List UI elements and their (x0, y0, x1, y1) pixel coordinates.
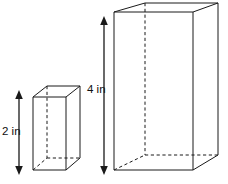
large-rectangular-prism (114, 3, 218, 170)
height-dimension-2in: 2 in (2, 90, 23, 175)
height-dimension-4in: 4 in (87, 16, 108, 175)
geometry-figure: 2 in 4 in (0, 0, 228, 184)
large-prism-right-face (193, 3, 218, 170)
small-rectangular-prism (33, 86, 80, 170)
dimension-2in-arrow-down-icon (15, 166, 23, 175)
dimension-4in-arrow-down-icon (100, 166, 108, 175)
small-prism-right-face (66, 86, 80, 170)
large-prism-front-face (114, 12, 193, 170)
dimension-2in-arrow-up-icon (15, 90, 23, 99)
small-prism-front-face (33, 97, 66, 170)
dimension-4in-label: 4 in (87, 83, 106, 95)
dimension-4in-arrow-up-icon (100, 16, 108, 25)
prisms-diagram: 2 in 4 in (0, 0, 228, 184)
dimension-2in-label: 2 in (2, 125, 21, 137)
